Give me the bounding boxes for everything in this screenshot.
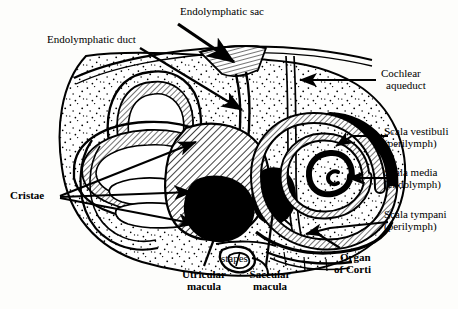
label-saccular-macula: Saccular macula	[239, 269, 301, 292]
label-scala-tympani: Scala tympani (perilymph)	[384, 209, 447, 232]
label-cochlear-aqueduct-line1: Cochlear	[381, 68, 426, 80]
label-stapes: stapes	[221, 253, 248, 265]
label-organ-of-corti: Organ of Corti	[334, 252, 371, 275]
label-scala-media: Scala media (endolymph)	[384, 167, 441, 190]
label-scala-vestibuli-line1: Scala vestibuli	[384, 126, 448, 138]
label-cochlear-aqueduct: Cochlear aqueduct	[381, 68, 426, 91]
label-scala-media-line1: Scala media	[384, 167, 441, 179]
label-saccular-macula-line1: Saccular	[239, 269, 301, 281]
label-scala-vestibuli-line2: (perilymph)	[384, 138, 448, 150]
label-endolymphatic-duct: Endolymphatic duct	[47, 34, 136, 46]
label-scala-tympani-line1: Scala tympani	[384, 209, 447, 221]
label-scala-tympani-line2: (perilymph)	[384, 221, 447, 233]
label-scala-vestibuli: Scala vestibuli (perilymph)	[384, 126, 448, 149]
label-cochlear-aqueduct-line2: aqueduct	[381, 80, 426, 92]
label-utricular-macula-line1: Utricular	[172, 269, 236, 281]
label-organ-of-corti-line2: of Corti	[334, 264, 371, 276]
label-cristae: Cristae	[10, 190, 44, 202]
label-saccular-macula-line2: macula	[239, 281, 301, 293]
label-endolymphatic-sac: Endolymphatic sac	[180, 6, 264, 18]
inner-ear-diagram-figure: Endolymphatic sac Endolymphatic duct Coc…	[0, 0, 458, 309]
label-utricular-macula: Utricular macula	[172, 269, 236, 292]
label-utricular-macula-line2: macula	[172, 281, 236, 293]
label-organ-of-corti-line1: Organ	[334, 252, 371, 264]
label-scala-media-line2: (endolymph)	[384, 179, 441, 191]
